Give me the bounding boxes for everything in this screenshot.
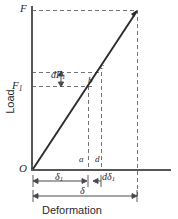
label-dF1-subscript: 1 xyxy=(62,73,65,80)
y-axis-label: Load xyxy=(5,78,16,126)
load-deformation-curve xyxy=(33,11,137,169)
x-axis-label: Deformation xyxy=(42,205,102,216)
dashed-guides xyxy=(32,10,137,197)
label-origin: O xyxy=(19,163,27,174)
label-ddelta1-subscript: 1 xyxy=(112,175,115,182)
label-delta1: δ1 xyxy=(55,172,63,183)
label-F: F xyxy=(20,3,27,14)
label-F1-subscript: 1 xyxy=(19,84,23,93)
label-point-d: d xyxy=(95,155,100,164)
label-point-a: a xyxy=(79,155,84,164)
diagram-canvas xyxy=(0,0,178,219)
label-dF1: dF1 xyxy=(51,70,66,81)
dimension-ddelta1 xyxy=(93,175,101,187)
load-deformation-diagram: F F1 dF1 b c O a d δ1 dδ1 δ Load Deforma… xyxy=(0,0,178,219)
label-ddelta1: dδ1 xyxy=(102,172,115,183)
label-point-b: b xyxy=(88,76,93,85)
label-dF1-main: dF xyxy=(51,69,62,80)
dimension-delta xyxy=(33,190,137,202)
label-delta1-subscript: 1 xyxy=(60,175,63,182)
label-point-c: c xyxy=(100,62,104,71)
label-ddelta1-main: dδ xyxy=(102,171,112,182)
label-delta: δ xyxy=(80,186,85,196)
